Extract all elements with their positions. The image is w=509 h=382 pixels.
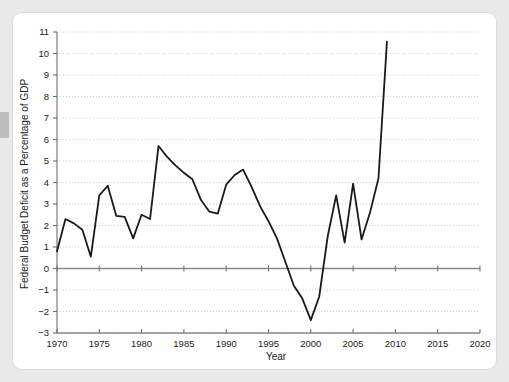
y-axis-tick-label: 2 xyxy=(44,220,49,231)
y-axis-tick-label: 0 xyxy=(44,263,49,274)
y-axis-tick-label: −2 xyxy=(38,306,49,317)
x-axis-tick-label: 2015 xyxy=(427,338,448,349)
x-axis-tick-label: 1995 xyxy=(258,338,279,349)
x-axis-tick-label: 1990 xyxy=(216,338,237,349)
y-axis-tick-label: 6 xyxy=(44,134,49,145)
y-axis-title: Federal Budget Deficit as a Percentage o… xyxy=(19,79,30,289)
y-axis-tick-label: 5 xyxy=(44,155,49,166)
y-axis-tick-label: 11 xyxy=(39,26,49,37)
y-axis-tick-label: −1 xyxy=(38,284,49,295)
y-axis-ticks-group xyxy=(53,32,57,333)
chart-plot-container: −3−2−101234567891011 1970197519801985199… xyxy=(0,0,509,382)
y-axis-tick-label: −3 xyxy=(38,327,49,338)
x-axis-tick-labels-group: 1970197519801985199019952000200520102015… xyxy=(46,338,490,349)
x-axis-tick-label: 1975 xyxy=(89,338,110,349)
deficit-data-line xyxy=(57,42,387,320)
y-axis-tick-labels-group: −3−2−101234567891011 xyxy=(38,26,49,338)
x-axis-tick-label: 1985 xyxy=(173,338,194,349)
y-axis-tick-label: 10 xyxy=(38,48,49,59)
y-axis-tick-label: 9 xyxy=(44,69,49,80)
x-axis-tick-label: 2010 xyxy=(385,338,406,349)
x-axis-tick-label: 2005 xyxy=(343,338,364,349)
line-chart: −3−2−101234567891011 1970197519801985199… xyxy=(0,0,509,382)
x-axis-title: Year xyxy=(266,351,287,362)
gridlines-group xyxy=(57,32,480,333)
x-axis-tick-label: 2000 xyxy=(300,338,321,349)
y-axis-tick-label: 8 xyxy=(44,91,49,102)
y-axis-tick-label: 3 xyxy=(44,198,49,209)
chart-page: −3−2−101234567891011 1970197519801985199… xyxy=(0,0,509,382)
y-axis-tick-label: 7 xyxy=(44,112,49,123)
x-axis-tick-label: 2020 xyxy=(469,338,490,349)
x-axis-tick-label: 1970 xyxy=(46,338,67,349)
x-axis-tick-label: 1980 xyxy=(131,338,152,349)
y-axis-tick-label: 1 xyxy=(44,241,49,252)
y-axis-tick-label: 4 xyxy=(44,177,49,188)
